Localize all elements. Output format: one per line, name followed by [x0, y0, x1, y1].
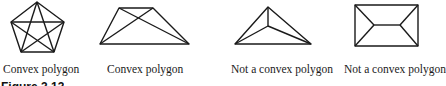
caption-pentagon: Convex polygon — [3, 62, 79, 76]
envelope-inner-line — [400, 25, 418, 46]
pentagon-inner-line — [21, 22, 64, 52]
shape-pentagon — [11, 2, 64, 52]
caption-envelope: Not a convex polygon — [344, 62, 446, 76]
envelope-inner-line — [355, 5, 374, 25]
caption-trapezoid: Convex polygon — [107, 62, 183, 76]
trapezoid-inner-line — [100, 8, 153, 44]
shape-arrowhead — [235, 7, 311, 44]
shape-envelope — [355, 5, 418, 46]
figure-label: Figure 3.13 — [1, 80, 64, 86]
polygon-figure — [0, 0, 437, 62]
shape-trapezoid — [100, 8, 189, 44]
caption-arrowhead: Not a convex polygon — [231, 62, 333, 76]
pentagon-inner-line — [37, 2, 54, 52]
arrowhead-inner-line — [235, 26, 268, 44]
envelope-inner-line — [355, 25, 374, 46]
envelope-inner-line — [400, 5, 418, 25]
pentagon-inner-line — [11, 22, 54, 52]
trapezoid-inner-line — [119, 8, 189, 44]
pentagon-inner-line — [21, 2, 37, 52]
arrowhead-inner-line — [268, 26, 311, 44]
